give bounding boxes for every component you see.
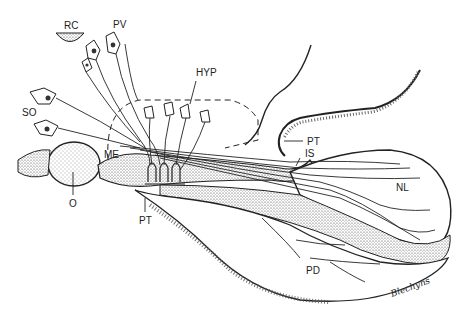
label-pt-upper: PT (307, 136, 320, 147)
supraoptic-neurons (30, 88, 145, 148)
hypothalamo-hypophyseal-illustration: RC PV HYP SO ME O PT PT IS NL PD Blechyn… (0, 0, 466, 316)
label-rc: RC (64, 20, 78, 31)
label-hyp: HYP (196, 67, 217, 78)
label-is: IS (305, 148, 315, 159)
label-so: SO (22, 107, 37, 118)
label-me: ME (104, 149, 119, 160)
label-pd: PD (306, 265, 320, 276)
label-pv: PV (113, 19, 127, 30)
paraventricular-neurons (82, 32, 160, 165)
label-o: O (69, 198, 77, 209)
ventricle-wall-left (245, 45, 311, 145)
label-nl: NL (396, 182, 409, 193)
ventricle-wall-right (279, 70, 420, 156)
optic-chiasm (48, 142, 100, 186)
recess-region (56, 33, 84, 42)
label-pt-lower: PT (139, 215, 152, 226)
